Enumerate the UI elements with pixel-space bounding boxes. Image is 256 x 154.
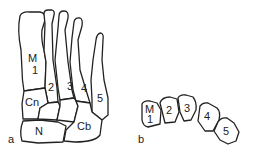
foot-bones-diagram: M 1 2 3 4 5 Cn N Cb a M 1 2 3 4 5 b <box>0 0 256 154</box>
label-3: 3 <box>67 80 73 92</box>
label-4: 4 <box>81 82 87 94</box>
label-b-5: 5 <box>223 125 229 137</box>
panel-a-label: a <box>8 133 15 145</box>
label-cb: Cb <box>77 120 91 132</box>
label-b-2: 2 <box>166 104 172 116</box>
label-2: 2 <box>48 81 54 93</box>
label-b-3: 3 <box>184 102 190 114</box>
panel-b-label: b <box>138 133 144 145</box>
label-m: M <box>28 52 37 64</box>
panel-b-metatarsal-arch: M 1 2 3 4 5 b <box>138 95 239 145</box>
panel-a-dorsal-foot: M 1 2 3 4 5 Cn N Cb a <box>8 10 108 145</box>
navicular <box>21 120 66 143</box>
label-5: 5 <box>97 92 103 104</box>
label-1: 1 <box>32 64 38 76</box>
label-b-1: 1 <box>147 113 153 125</box>
label-n: N <box>35 125 43 137</box>
metatarsal-5 <box>91 33 108 120</box>
label-b-4: 4 <box>204 110 210 122</box>
label-cn: Cn <box>25 96 39 108</box>
